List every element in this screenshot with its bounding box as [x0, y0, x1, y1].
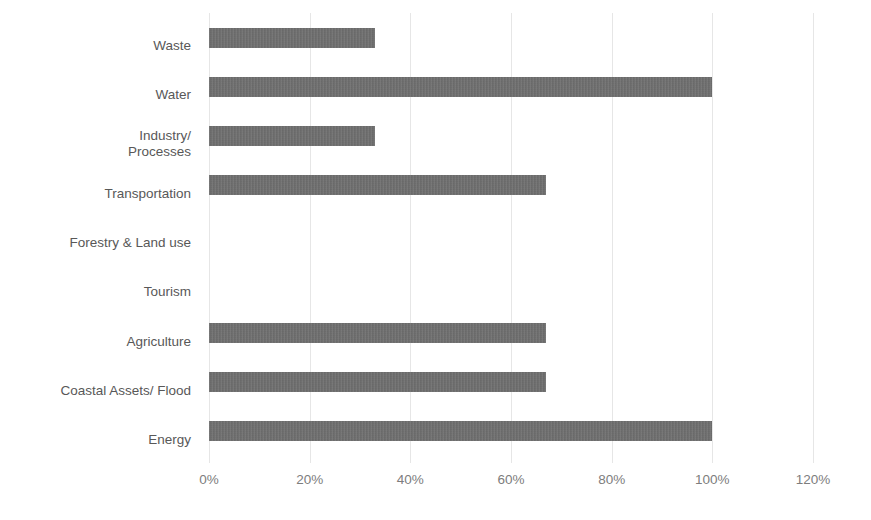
bar-row: [209, 111, 813, 160]
bar-row: [209, 62, 813, 111]
category-label-coastal-assets-flood: Coastal Assets/ Flood: [0, 383, 191, 399]
bar-industry-processes[interactable]: [209, 126, 375, 146]
category-label-transportation: Transportation: [0, 186, 191, 202]
bar-water[interactable]: [209, 77, 712, 97]
bar-row: [209, 308, 813, 357]
x-tick-label-120: 120%: [773, 472, 853, 487]
category-label-water: Water: [0, 87, 191, 103]
category-label-energy: Energy: [0, 432, 191, 448]
bar-coastal-assets-flood[interactable]: [209, 372, 546, 392]
gridline-120: [813, 13, 814, 463]
x-tick-label-0: 0%: [169, 472, 249, 487]
x-tick-label-40: 40%: [370, 472, 450, 487]
bar-chart: Waste Water Industry/ Processes Transpor…: [0, 0, 871, 520]
bar-row: [209, 161, 813, 210]
category-label-waste: Waste: [0, 38, 191, 54]
bar-transportation[interactable]: [209, 175, 546, 195]
bar-row: [209, 259, 813, 308]
category-label-agriculture: Agriculture: [0, 334, 191, 350]
x-tick-label-20: 20%: [270, 472, 350, 487]
bar-row: [209, 13, 813, 62]
bar-agriculture[interactable]: [209, 323, 546, 343]
plot-area: [209, 13, 813, 463]
x-tick-label-80: 80%: [572, 472, 652, 487]
category-label-forestry-land-use: Forestry & Land use: [0, 235, 191, 251]
bar-row: [209, 210, 813, 259]
x-tick-label-60: 60%: [471, 472, 551, 487]
bar-row: [209, 407, 813, 456]
bar-row: [209, 357, 813, 406]
x-tick-label-100: 100%: [672, 472, 752, 487]
category-label-industry-processes: Industry/ Processes: [0, 128, 191, 160]
bar-energy[interactable]: [209, 421, 712, 441]
bar-waste[interactable]: [209, 28, 375, 48]
category-label-tourism: Tourism: [0, 284, 191, 300]
